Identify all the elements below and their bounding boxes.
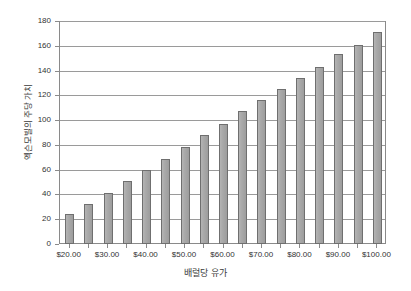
y-tick-label: 120 [17, 91, 51, 99]
bar [315, 67, 324, 244]
bar [104, 193, 113, 244]
x-tick-mark [165, 244, 166, 248]
y-tick-label: 160 [17, 42, 51, 50]
x-tick-mark [107, 244, 108, 248]
bar [219, 124, 228, 244]
bar [257, 100, 266, 244]
x-tick-mark [223, 244, 224, 248]
x-tick-mark [203, 244, 204, 248]
y-tick-label: 40 [17, 190, 51, 198]
bar [123, 181, 132, 244]
x-tick-mark [126, 244, 127, 248]
x-tick-mark [146, 244, 147, 248]
bar [373, 32, 382, 244]
x-tick-mark [299, 244, 300, 248]
x-tick-mark [261, 244, 262, 248]
x-tick-mark [69, 244, 70, 248]
bar [334, 54, 343, 244]
y-tick-label: 20 [17, 215, 51, 223]
gridline [60, 21, 385, 22]
x-tick-mark [376, 244, 377, 248]
bar-chart: 엑슨모빌의 주당 가치 배럴당 유가 020406080100120140160… [0, 0, 411, 291]
x-tick-mark [88, 244, 89, 248]
bar [181, 147, 190, 244]
bar [161, 159, 170, 244]
x-tick-mark [338, 244, 339, 248]
y-tick-label: 180 [17, 17, 51, 25]
bar [238, 111, 247, 244]
bar [142, 170, 151, 244]
y-tick-mark [55, 244, 59, 245]
x-tick-mark [184, 244, 185, 248]
bar [354, 45, 363, 244]
gridline [60, 46, 385, 47]
bar [277, 89, 286, 244]
x-tick-label: $100.00 [348, 250, 404, 260]
bar [200, 135, 209, 244]
y-tick-label: 140 [17, 67, 51, 75]
x-tick-mark [280, 244, 281, 248]
y-tick-label: 60 [17, 166, 51, 174]
x-axis-title: 배럴당 유가 [0, 266, 411, 279]
plot-area [59, 21, 386, 244]
y-tick-label: 80 [17, 141, 51, 149]
y-tick-label: 0 [17, 240, 51, 248]
bar [65, 214, 74, 244]
y-tick-label: 100 [17, 116, 51, 124]
x-tick-mark [242, 244, 243, 248]
bar [84, 204, 93, 244]
x-tick-mark [319, 244, 320, 248]
x-tick-mark [357, 244, 358, 248]
bar [296, 78, 305, 244]
